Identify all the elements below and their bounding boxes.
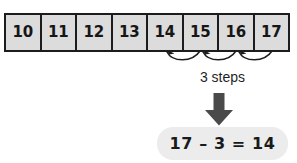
count-back-hops (0, 48, 297, 72)
number-line-cell-label: 14 (155, 25, 175, 40)
number-line-cell: 10 (6, 15, 42, 50)
arrow-down-icon (203, 93, 235, 126)
number-line-cell-label: 16 (226, 25, 246, 40)
number-line-cell: 16 (219, 15, 255, 50)
steps-caption: 3 steps (160, 70, 285, 85)
number-line-cell: 11 (42, 15, 78, 50)
number-line-cell: 13 (113, 15, 149, 50)
number-line-cell-label: 11 (48, 25, 68, 40)
result-equation: 17 – 3 = 14 (170, 135, 276, 151)
number-line-cell: 12 (77, 15, 113, 50)
number-line-cell-label: 13 (119, 25, 139, 40)
number-line-cell-label: 12 (84, 25, 104, 40)
number-line-cell-label: 17 (261, 25, 281, 40)
number-line-strip: 10 11 12 13 14 15 16 17 (4, 13, 290, 52)
result-pill: 17 – 3 = 14 (157, 127, 288, 160)
number-line-cell: 17 (255, 15, 289, 50)
arrowhead-group (167, 50, 247, 59)
number-line-cell: 14 (148, 15, 184, 50)
number-line-cell-label: 15 (190, 25, 210, 40)
number-line-cell: 15 (184, 15, 220, 50)
number-line-subtraction-diagram: 10 11 12 13 14 15 16 17 (0, 0, 297, 163)
number-line-cell-label: 10 (13, 25, 33, 40)
